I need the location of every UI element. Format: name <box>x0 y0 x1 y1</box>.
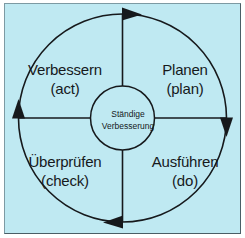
diagram-frame: Verbessern (act) Planen (plan) Überprüfe… <box>0 0 245 238</box>
arrow-top-icon <box>122 8 142 21</box>
pdca-cycle-graphic <box>5 4 240 233</box>
arrow-left-icon <box>12 99 25 119</box>
arrow-right-icon <box>220 118 233 138</box>
pdca-diagram: Verbessern (act) Planen (plan) Überprüfe… <box>4 3 241 234</box>
inner-center-circle <box>91 86 155 150</box>
arrow-bottom-icon <box>103 216 123 229</box>
